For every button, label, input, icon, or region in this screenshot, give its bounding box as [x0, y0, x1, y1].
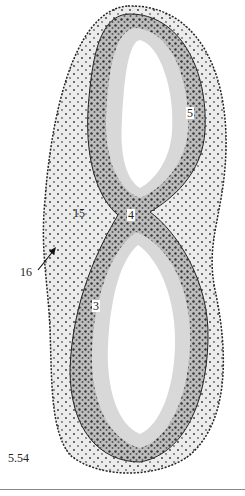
divider-line: [0, 489, 245, 490]
figure-number: 5.54: [8, 452, 29, 464]
label-5: 5: [186, 107, 194, 119]
micrograph: [0, 0, 245, 496]
label-4: 4: [127, 209, 135, 221]
label-15: 15: [73, 207, 85, 219]
label-16: 16: [20, 266, 32, 278]
label-3: 3: [92, 300, 100, 312]
